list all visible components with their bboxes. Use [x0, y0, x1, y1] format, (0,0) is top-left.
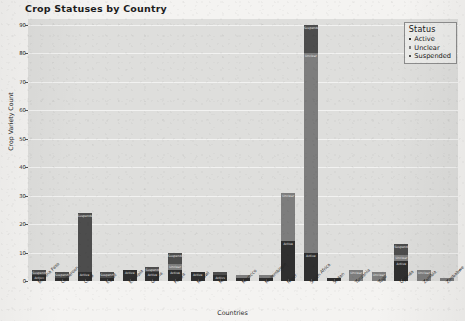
bar-segment-suspended[interactable]: Suspended: [304, 25, 318, 53]
y-tick-mark: [25, 139, 28, 140]
bar-segment-suspended[interactable]: Suspended: [168, 253, 182, 264]
gridline: [28, 82, 458, 83]
bar-segment-label: Active: [281, 242, 295, 246]
y-tick-label: 80: [4, 50, 26, 56]
bar-segment-label: Suspended: [394, 245, 408, 249]
legend-item[interactable]: Active: [409, 35, 451, 43]
bar-segment-label: Suspended: [145, 268, 159, 272]
y-tick-label: 90: [4, 22, 26, 28]
y-tick-mark: [25, 253, 28, 254]
y-tick-mark: [25, 25, 28, 26]
y-tick-label: 20: [4, 221, 26, 227]
gridline: [28, 139, 458, 140]
bar-segment-unclear[interactable]: Unclear: [394, 255, 408, 261]
y-tick-label: 0: [4, 278, 26, 284]
bar-segment-label: Unclear: [168, 265, 182, 269]
gridline: [28, 25, 458, 26]
y-tick-label: 10: [4, 250, 26, 256]
gridline: [28, 196, 458, 197]
legend-label: Active: [414, 35, 434, 43]
bar-segment-label: Active: [394, 262, 408, 266]
y-tick-mark: [25, 82, 28, 83]
y-tick-label: 30: [4, 193, 26, 199]
legend-items: ActiveUnclearSuspended: [409, 35, 451, 60]
legend-item[interactable]: Unclear: [409, 44, 451, 52]
plot-area: ActiveSuspendedSuspendedActiveSuspendedS…: [28, 19, 458, 281]
bar-segment-label: Suspended: [304, 26, 318, 30]
y-tick-mark: [25, 110, 28, 111]
bar-segment-suspended[interactable]: Suspended: [78, 213, 92, 273]
bar-segment-suspended[interactable]: Suspended: [394, 244, 408, 255]
bar-segment-label: Unclear: [394, 256, 408, 260]
legend-swatch-icon: [409, 46, 412, 49]
legend-swatch-icon: [409, 55, 412, 58]
bar-segment-unclear[interactable]: Unclear: [281, 193, 295, 241]
legend: Status ActiveUnclearSuspended: [404, 22, 457, 64]
legend-label: Suspended: [414, 52, 451, 60]
y-tick-mark: [25, 53, 28, 54]
bar-segment-label: Unclear: [281, 194, 295, 198]
y-tick-mark: [25, 167, 28, 168]
bar-segment-label: Unclear: [304, 54, 318, 58]
gridline: [28, 53, 458, 54]
bar-segment-unclear[interactable]: Unclear: [168, 264, 182, 270]
gridline: [28, 224, 458, 225]
gridline: [28, 110, 458, 111]
bar-segment-label: Suspended: [78, 214, 92, 218]
legend-item[interactable]: Suspended: [409, 52, 451, 60]
gridline: [28, 167, 458, 168]
legend-label: Unclear: [414, 44, 439, 52]
y-tick-mark: [25, 224, 28, 225]
x-axis-label: Countries: [0, 309, 465, 317]
bar-segment-unclear[interactable]: Unclear: [304, 53, 318, 252]
bar-segment-label: Suspended: [168, 254, 182, 258]
chart-figure: Crop Statuses by Country ActiveSuspended…: [0, 0, 465, 321]
legend-title: Status: [409, 25, 451, 34]
y-tick-mark: [25, 196, 28, 197]
bar-segment-label: Active: [304, 254, 318, 258]
y-tick-label: 40: [4, 164, 26, 170]
legend-swatch-icon: [409, 38, 412, 41]
bar-segment-suspended[interactable]: Suspended: [145, 267, 159, 273]
chart-title: Crop Statuses by Country: [25, 3, 167, 14]
y-axis-label: Crop Variety Count: [7, 82, 14, 162]
